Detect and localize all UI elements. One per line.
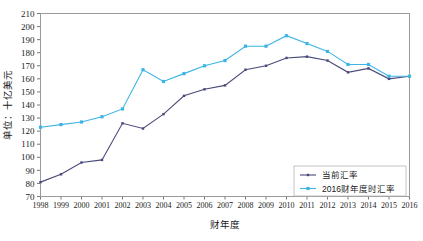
- data-point-marker: [80, 161, 82, 163]
- data-point-marker: [121, 122, 123, 124]
- data-point-marker: [306, 55, 308, 57]
- data-point-marker: [162, 113, 164, 115]
- legend-item-label: 2016财年度时汇率: [322, 184, 395, 194]
- data-point-marker: [141, 68, 144, 71]
- data-point-marker: [305, 42, 308, 45]
- y-tick-label: 160: [21, 74, 35, 84]
- data-point-marker: [60, 173, 62, 175]
- x-tick-label: 1998: [33, 201, 49, 210]
- y-tick-label: 100: [21, 152, 35, 162]
- data-point-marker: [265, 65, 267, 67]
- x-tick-label: 2014: [361, 201, 377, 210]
- x-tick-label: 2016: [402, 201, 418, 210]
- y-tick-label: 190: [21, 35, 35, 45]
- x-tick-label: 2006: [197, 201, 213, 210]
- x-tick-label: 2010: [279, 201, 295, 210]
- data-point-marker: [367, 67, 369, 69]
- data-point-marker: [59, 123, 62, 126]
- x-axis-title: 财年度: [210, 219, 240, 230]
- y-axis-tick-marks: [37, 14, 41, 197]
- data-point-marker: [408, 75, 411, 78]
- x-tick-label: 2003: [135, 201, 151, 210]
- data-point-marker: [223, 59, 226, 62]
- data-point-marker: [224, 84, 226, 86]
- series-line: [41, 36, 410, 128]
- x-tick-label: 2008: [238, 201, 254, 210]
- legend-item-label: 当前汇率: [322, 170, 358, 180]
- data-point-marker: [264, 45, 267, 48]
- data-point-marker: [121, 107, 124, 110]
- data-point-marker: [244, 69, 246, 71]
- x-tick-label: 2011: [299, 201, 315, 210]
- data-point-marker: [244, 45, 247, 48]
- x-tick-label: 1999: [53, 201, 69, 210]
- data-point-marker: [326, 59, 328, 61]
- chart-container: 7080901001101201301401501601701801902002…: [0, 0, 423, 241]
- data-point-marker: [285, 57, 287, 59]
- data-point-marker: [39, 181, 41, 183]
- x-axis-tick-labels: 1998199920002001200220032004200520062007…: [33, 201, 418, 210]
- data-point-marker: [203, 88, 205, 90]
- y-tick-label: 90: [26, 166, 36, 176]
- y-tick-label: 170: [21, 61, 35, 71]
- x-tick-label: 2001: [94, 201, 110, 210]
- data-point-marker: [326, 50, 329, 53]
- y-axis-title: 单位：十亿美元: [2, 70, 13, 140]
- data-point-marker: [101, 159, 103, 161]
- y-tick-label: 120: [21, 126, 35, 136]
- data-point-marker: [367, 63, 370, 66]
- data-point-marker: [39, 126, 42, 129]
- series-1: [39, 55, 410, 183]
- data-point-marker: [80, 120, 83, 123]
- data-point-marker: [388, 78, 390, 80]
- data-point-marker: [203, 64, 206, 67]
- x-tick-label: 2012: [320, 201, 336, 210]
- data-point-marker: [162, 80, 165, 83]
- line-chart: 7080901001101201301401501601701801902002…: [0, 0, 423, 241]
- y-tick-label: 210: [21, 9, 35, 19]
- y-tick-label: 140: [21, 100, 35, 110]
- y-tick-label: 110: [21, 139, 35, 149]
- series-2: [39, 34, 411, 129]
- series-line: [41, 57, 410, 182]
- x-tick-label: 2004: [156, 201, 172, 210]
- data-point-marker: [285, 34, 288, 37]
- x-tick-label: 2005: [176, 201, 192, 210]
- x-tick-label: 2007: [217, 201, 233, 210]
- x-tick-label: 2009: [258, 201, 274, 210]
- y-axis-tick-labels: 7080901001101201301401501601701801902002…: [21, 9, 35, 202]
- legend-swatch-marker: [306, 187, 309, 190]
- data-point-marker: [347, 71, 349, 73]
- x-tick-label: 2015: [381, 201, 397, 210]
- data-point-marker: [142, 127, 144, 129]
- data-point-marker: [387, 75, 390, 78]
- y-tick-label: 130: [21, 113, 35, 123]
- x-tick-label: 2013: [340, 201, 356, 210]
- data-point-marker: [100, 115, 103, 118]
- y-tick-label: 150: [21, 87, 35, 97]
- y-tick-label: 180: [21, 48, 35, 58]
- legend-swatch-marker: [307, 174, 309, 176]
- chart-legend: 当前汇率2016财年度时汇率: [294, 166, 406, 196]
- data-series-layer: [39, 34, 411, 183]
- y-tick-label: 80: [26, 179, 36, 189]
- data-point-marker: [182, 72, 185, 75]
- x-tick-label: 2000: [74, 201, 90, 210]
- data-point-marker: [183, 95, 185, 97]
- data-point-marker: [346, 63, 349, 66]
- x-tick-label: 2002: [115, 201, 131, 210]
- y-tick-label: 200: [21, 22, 35, 32]
